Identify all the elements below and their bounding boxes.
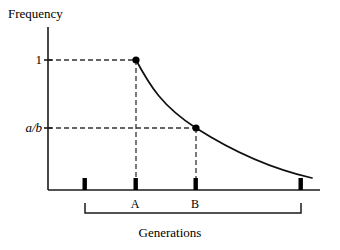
x-tick-mark-b xyxy=(194,178,198,190)
data-point-a xyxy=(132,56,139,63)
x-tick-label-a: A xyxy=(126,198,144,210)
decay-curve xyxy=(136,60,312,178)
data-point-b xyxy=(192,124,199,131)
chart-figure: Frequency 1 a/b A B Generations xyxy=(0,0,340,250)
x-tick-label-b: B xyxy=(186,198,204,210)
x-axis-title: Generations xyxy=(0,226,340,239)
y-tick-label-a-over-b: a/b xyxy=(10,121,42,134)
y-tick-label-one: 1 xyxy=(20,53,42,66)
x-tick-mark-1 xyxy=(83,178,87,190)
x-tick-mark-a xyxy=(134,178,138,190)
chart-plot-area xyxy=(0,0,340,250)
x-tick-mark-4 xyxy=(299,178,303,190)
y-axis-title: Frequency xyxy=(8,7,63,20)
